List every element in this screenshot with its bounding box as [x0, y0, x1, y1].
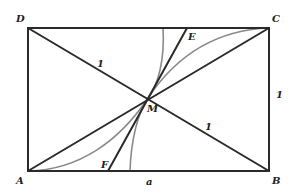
segment-ef: [108, 28, 187, 171]
label-half-diagonal-dm: 1: [97, 58, 104, 69]
label-point-m: M: [146, 103, 159, 114]
label-side-ab: a: [146, 176, 152, 187]
geometry-diagram: D C E M 1 1 1 A F a B: [0, 0, 294, 195]
label-point-f: F: [100, 159, 109, 170]
label-side-bc: 1: [276, 89, 283, 100]
label-point-c: C: [272, 13, 280, 24]
label-half-diagonal-mb: 1: [205, 121, 212, 132]
label-point-a: A: [15, 175, 24, 186]
label-point-b: B: [271, 175, 280, 186]
label-point-d: D: [15, 13, 25, 24]
label-point-e: E: [187, 31, 196, 42]
